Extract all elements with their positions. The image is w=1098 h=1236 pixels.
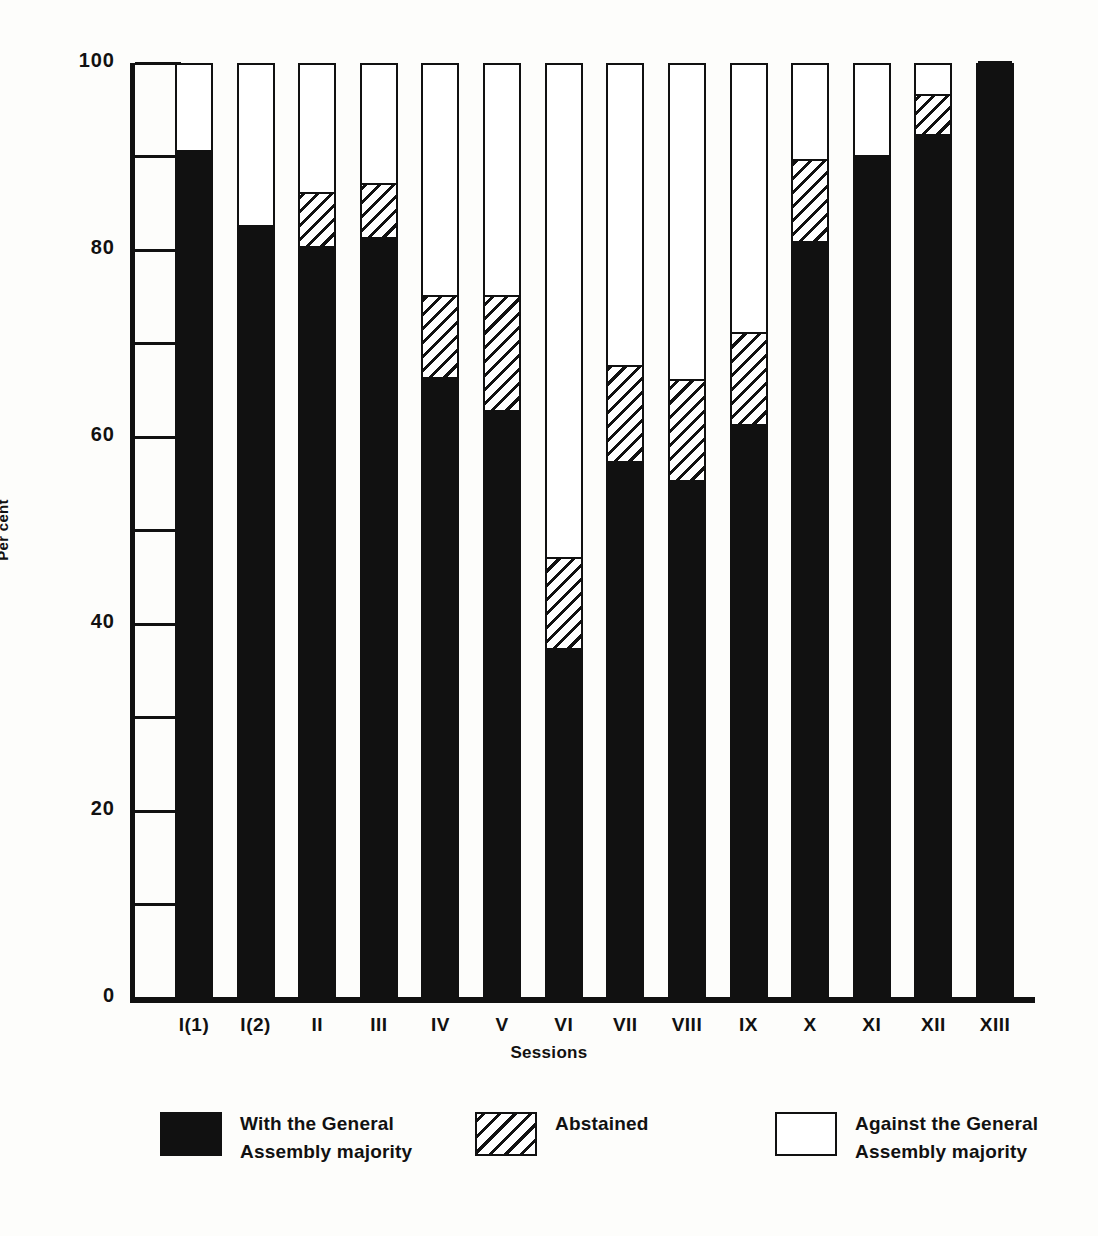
segment-abstained-IV (423, 295, 457, 379)
bar-I(1)[interactable] (175, 63, 213, 998)
legend-label-line1: With the General (240, 1110, 412, 1138)
bar-III[interactable] (360, 63, 398, 998)
x-tick-label-XIII: XIII (950, 1014, 1040, 1036)
segment-with-II (300, 248, 334, 996)
legend-label-0: With the GeneralAssembly majority (240, 1110, 412, 1165)
bar-XIII[interactable] (976, 63, 1014, 998)
legend-label-2: Against the GeneralAssembly majority (855, 1110, 1038, 1165)
legend-swatch-white (775, 1112, 837, 1156)
plot-area (130, 63, 1035, 998)
legend-item-2[interactable]: Against the GeneralAssembly majority (775, 1110, 1040, 1165)
bar-V[interactable] (483, 63, 521, 998)
legend-label-line2: Assembly majority (855, 1138, 1038, 1166)
segment-abstained-II (300, 192, 334, 248)
segment-abstained-III (362, 183, 396, 239)
segment-abstained-V (485, 295, 519, 412)
segment-abstained-VII (608, 365, 642, 463)
bar-XI[interactable] (853, 63, 891, 998)
legend-label-1: Abstained (555, 1110, 649, 1138)
legend-label-line1: Abstained (555, 1110, 649, 1138)
legend-swatch-solid-black (160, 1112, 222, 1156)
segment-with-I(1) (177, 150, 211, 996)
bar-I(2)[interactable] (237, 63, 275, 998)
segment-abstained-VIII (670, 379, 704, 482)
segment-abstained-X (793, 159, 827, 243)
segment-with-V (485, 412, 519, 996)
legend-label-line1: Against the General (855, 1110, 1038, 1138)
segment-with-IV (423, 379, 457, 996)
segment-abstained-IX (732, 332, 766, 426)
segment-with-XI (855, 155, 889, 997)
bar-VIII[interactable] (668, 63, 706, 998)
bar-IV[interactable] (421, 63, 459, 998)
legend-label-line2: Assembly majority (240, 1138, 412, 1166)
y-axis-title: Per cent (0, 470, 11, 590)
segment-with-XIII (978, 61, 1012, 996)
segment-with-X (793, 243, 827, 996)
segment-abstained-VI (547, 557, 581, 651)
legend-item-0[interactable]: With the GeneralAssembly majority (160, 1110, 475, 1165)
segment-with-XII (916, 136, 950, 996)
bar-X[interactable] (791, 63, 829, 998)
chart-figure: Per cent 100806040200 I(1)I(2)IIIIIIVVVI… (0, 0, 1098, 1236)
y-tick-label-100: 100 (20, 49, 115, 72)
segment-with-VI (547, 650, 581, 996)
bar-II[interactable] (298, 63, 336, 998)
segment-with-III (362, 239, 396, 996)
x-axis-title: Sessions (0, 1043, 1098, 1063)
segment-with-I(2) (239, 225, 273, 996)
bar-VI[interactable] (545, 63, 583, 998)
bar-VII[interactable] (606, 63, 644, 998)
legend-swatch-hatched (475, 1112, 537, 1156)
segment-with-IX (732, 426, 766, 996)
y-tick-label-0: 0 (20, 984, 115, 1007)
chart-legend: With the GeneralAssembly majorityAbstain… (160, 1110, 1040, 1165)
bar-IX[interactable] (730, 63, 768, 998)
y-tick-label-40: 40 (20, 610, 115, 633)
legend-item-1[interactable]: Abstained (475, 1110, 775, 1156)
segment-with-VII (608, 463, 642, 996)
y-tick-label-60: 60 (20, 423, 115, 446)
segment-abstained-XII (916, 94, 950, 136)
y-tick-label-80: 80 (20, 236, 115, 259)
segment-with-VIII (670, 482, 704, 996)
y-tick-label-20: 20 (20, 797, 115, 820)
bar-XII[interactable] (914, 63, 952, 998)
